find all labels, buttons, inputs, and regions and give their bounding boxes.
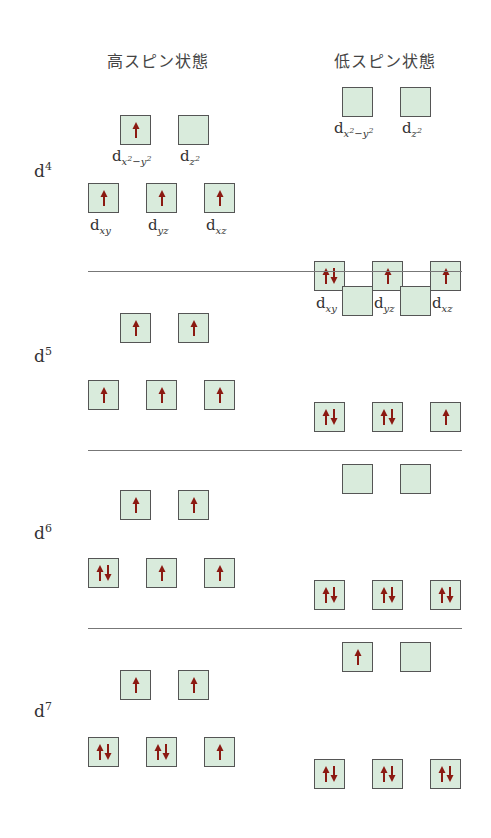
high-spin-t2g-orbital [88, 558, 119, 588]
high-spin-t2g-orbital [204, 183, 235, 213]
high-spin-eg-orbital [178, 490, 209, 520]
spin-up-arrow-icon [208, 740, 232, 764]
low-spin-t2g-orbital [314, 759, 345, 789]
low-spin-t2g-orbital [430, 580, 461, 610]
orbital-label: dz2 [402, 119, 422, 139]
low-spin-t2g-orbital [372, 261, 403, 291]
low-spin-t2g-orbital [372, 580, 403, 610]
low-spin-t2g-orbital [372, 402, 403, 432]
spin-up-arrow-icon [150, 383, 174, 407]
orbital-label: dyz [374, 294, 395, 314]
orbital-label: dxz [206, 216, 227, 236]
high-spin-eg-orbital [120, 490, 151, 520]
spin-up-arrow-icon [124, 316, 148, 340]
spin-up-arrow-icon [208, 561, 232, 585]
header-low-spin: 低スピン状態 [334, 48, 436, 72]
low-spin-eg-orbital [342, 286, 373, 316]
low-spin-eg-orbital [400, 642, 431, 672]
row-divider [88, 450, 462, 451]
spin-pair-arrows-icon [318, 762, 342, 786]
low-spin-t2g-orbital [372, 759, 403, 789]
spin-pair-arrows-icon [434, 583, 458, 607]
orbital-label: dyz [148, 216, 169, 236]
spin-up-arrow-icon [150, 561, 174, 585]
spin-up-arrow-icon [150, 186, 174, 210]
spin-up-arrow-icon [124, 673, 148, 697]
row-divider [88, 271, 462, 272]
spin-pair-arrows-icon [376, 583, 400, 607]
high-spin-eg-orbital [120, 670, 151, 700]
orbital-label: dxy [316, 294, 337, 314]
low-spin-eg-orbital [400, 87, 431, 117]
spin-pair-arrows-icon [318, 583, 342, 607]
orbital-label: dz2 [180, 147, 200, 167]
high-spin-eg-orbital [120, 115, 151, 145]
high-spin-t2g-orbital [146, 183, 177, 213]
low-spin-t2g-orbital [430, 402, 461, 432]
high-spin-t2g-orbital [146, 380, 177, 410]
spin-up-arrow-icon [208, 383, 232, 407]
config-label-d7: d7 [34, 700, 52, 721]
high-spin-t2g-orbital [146, 737, 177, 767]
spin-up-arrow-icon [124, 493, 148, 517]
high-spin-t2g-orbital [204, 558, 235, 588]
spin-up-arrow-icon [346, 645, 370, 669]
low-spin-t2g-orbital [314, 402, 345, 432]
config-label-d5: d5 [34, 345, 52, 366]
spin-up-arrow-icon [182, 316, 206, 340]
high-spin-eg-orbital [178, 670, 209, 700]
spin-pair-arrows-icon [318, 264, 342, 288]
high-spin-t2g-orbital [146, 558, 177, 588]
low-spin-t2g-orbital [430, 261, 461, 291]
spin-up-arrow-icon [182, 673, 206, 697]
low-spin-eg-orbital [342, 464, 373, 494]
header-high-spin: 高スピン状態 [107, 48, 209, 72]
spin-up-arrow-icon [92, 383, 116, 407]
low-spin-eg-orbital [400, 464, 431, 494]
spin-up-arrow-icon [434, 405, 458, 429]
high-spin-t2g-orbital [88, 183, 119, 213]
spin-pair-arrows-icon [92, 740, 116, 764]
spin-pair-arrows-icon [92, 561, 116, 585]
low-spin-eg-orbital [342, 642, 373, 672]
spin-up-arrow-icon [124, 118, 148, 142]
low-spin-t2g-orbital [430, 759, 461, 789]
orbital-label: dx2−y2 [112, 147, 151, 167]
low-spin-t2g-orbital [314, 261, 345, 291]
high-spin-eg-orbital [120, 313, 151, 343]
spin-pair-arrows-icon [376, 405, 400, 429]
spin-up-arrow-icon [376, 264, 400, 288]
high-spin-t2g-orbital [88, 737, 119, 767]
spin-pair-arrows-icon [434, 762, 458, 786]
spin-pair-arrows-icon [376, 762, 400, 786]
low-spin-eg-orbital [342, 87, 373, 117]
config-label-d4: d4 [34, 160, 52, 181]
high-spin-t2g-orbital [204, 380, 235, 410]
spin-up-arrow-icon [182, 493, 206, 517]
low-spin-eg-orbital [400, 286, 431, 316]
spin-up-arrow-icon [208, 186, 232, 210]
high-spin-eg-orbital [178, 115, 209, 145]
orbital-label: dxy [90, 216, 111, 236]
config-label-d6: d6 [34, 522, 52, 543]
high-spin-t2g-orbital [88, 380, 119, 410]
spin-pair-arrows-icon [150, 740, 174, 764]
spin-up-arrow-icon [434, 264, 458, 288]
orbital-label: dxz [432, 294, 453, 314]
high-spin-eg-orbital [178, 313, 209, 343]
spin-pair-arrows-icon [318, 405, 342, 429]
orbital-label: dx2−y2 [334, 119, 373, 139]
row-divider [88, 628, 462, 629]
low-spin-t2g-orbital [314, 580, 345, 610]
spin-up-arrow-icon [92, 186, 116, 210]
high-spin-t2g-orbital [204, 737, 235, 767]
